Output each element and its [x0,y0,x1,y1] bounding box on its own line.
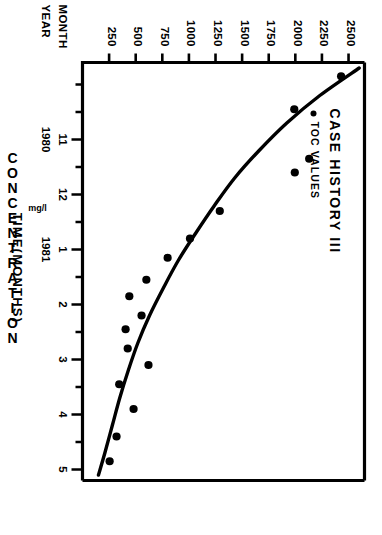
y-axis-title-letter: T [5,285,20,301]
data-point-marker [137,311,145,319]
data-point-marker [115,380,123,388]
legend-entry-label: TOC VALUES [308,121,320,199]
legend-marker-dot [310,110,316,116]
y-axis-title-letter: N [5,225,20,241]
x-axis-year-label: 1981 [39,225,51,273]
row-label-month: MONTH [56,4,68,48]
data-point-marker [125,292,133,300]
y-axis-title-letter: C [5,150,20,166]
y-axis-title-letter: C [5,195,20,211]
legend-title: CASE HISTORY III [326,108,342,253]
y-axis-tick-label: 1750 [264,0,276,46]
x-axis-month-label: 1 [56,229,68,269]
y-axis-tick-label: 500 [131,0,143,46]
y-axis-title-letter: O [5,315,20,331]
x-axis-month-label: 11 [56,119,68,159]
data-point-marker [290,105,298,113]
y-axis-tick-label: 750 [158,0,170,46]
y-axis-tick-label: 1000 [184,0,196,46]
x-axis-year-label: 1980 [39,115,51,163]
x-axis-month-label: 5 [56,449,68,489]
data-point-marker [185,234,193,242]
data-point-marker [290,168,298,176]
data-point-marker [215,206,223,214]
data-point-marker [144,360,152,368]
x-axis-month-label: 3 [56,339,68,379]
y-axis-tick-label: 2500 [344,0,356,46]
data-point-marker [105,457,113,465]
y-axis-title-letter: A [5,270,20,286]
y-axis-title-letter: R [5,255,20,271]
data-point-marker [112,432,120,440]
figure: CASE HISTORY III TOC VALUES 250022502000… [0,0,382,535]
legend-entry: TOC VALUES [308,110,320,199]
data-point-marker [123,344,131,352]
y-axis-title-letter: E [5,210,20,226]
data-point-marker [129,404,137,412]
y-axis-tick-label: 2250 [317,0,329,46]
x-axis-month-label: 2 [56,284,68,324]
y-axis-title: CONCENTRATION [4,150,20,345]
data-point-marker [142,275,150,283]
x-axis-month-label: 4 [56,394,68,434]
data-point-marker [121,325,129,333]
data-point-marker [163,253,171,261]
rotated-figure-wrapper: CASE HISTORY III TOC VALUES 250022502000… [0,0,382,535]
axis-frame-left-bottom [82,62,364,480]
y-axis-title-letter: N [5,180,20,196]
x-axis-month-label: 12 [56,174,68,214]
y-axis-unit-label: mg/l [28,202,47,212]
y-axis-tick-label: 2000 [291,0,303,46]
y-axis-tick-label: 1500 [238,0,250,46]
y-axis-tick-label: 250 [105,0,117,46]
chart-screenshot: CASE HISTORY III TOC VALUES 250022502000… [0,0,382,535]
y-axis-title-letter: O [5,165,20,181]
row-label-year: YEAR [39,4,51,38]
data-point-marker [336,72,344,80]
y-axis-title-letter: T [5,240,20,256]
y-axis-title-letter: I [5,300,20,316]
y-axis-title-letter: N [5,330,20,346]
y-axis-tick-label: 1250 [211,0,223,46]
